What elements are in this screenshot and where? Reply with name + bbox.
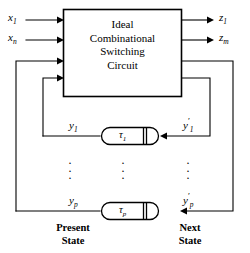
delay-label-taup-sub: p <box>123 210 127 218</box>
input-label-x1: x1 <box>8 12 17 23</box>
output-label-zm-sub: m <box>223 37 228 46</box>
ellipsis-dot: · <box>118 175 128 183</box>
present-state-label-y1: y1 <box>69 120 78 131</box>
input-label-x1-sub: 1 <box>13 17 17 26</box>
present-state-label-y1-sub: 1 <box>74 125 78 134</box>
present-state-label-yp-sub: p <box>74 200 78 209</box>
block-title-line-4: Circuit <box>64 59 181 73</box>
caption-present-state-line-2: State <box>38 235 108 248</box>
ellipsis-present-state: · · · <box>65 160 75 183</box>
next-state-label-y1-prime: y′1 <box>183 120 194 131</box>
block-title: Ideal Combinational Switching Circuit <box>64 18 181 72</box>
next-state-label-yp-prime-sub: p <box>190 200 194 209</box>
delay-element-p <box>102 203 159 220</box>
output-wire-zm <box>181 36 214 43</box>
caption-next-state-line-2: State <box>160 235 220 248</box>
ellipsis-dot: · <box>65 175 75 183</box>
ellipsis-delay-elements: · · · <box>118 160 128 183</box>
output-label-zm: zm <box>219 32 229 43</box>
figure-canvas: Ideal Combinational Switching Circuit x1… <box>0 0 250 253</box>
present-state-label-yp: yp <box>69 195 78 206</box>
input-label-xn-sub: n <box>13 37 17 46</box>
output-label-z1-sub: 1 <box>223 17 227 26</box>
delay-label-tau1: τ1 <box>119 130 126 141</box>
caption-present-state-line-1: Present <box>38 222 108 235</box>
delay-element-1 <box>102 128 159 145</box>
block-title-line-1: Ideal <box>64 18 181 32</box>
input-wire-xn <box>26 36 64 43</box>
delay-label-tau1-sub: 1 <box>123 135 127 143</box>
delay-label-taup: τp <box>119 205 126 216</box>
input-label-xn: xn <box>8 32 17 43</box>
caption-next-state: Next State <box>160 222 220 247</box>
output-label-z1: z1 <box>219 12 227 23</box>
block-title-line-2: Combinational <box>64 32 181 46</box>
next-state-label-yp-prime: y′p <box>183 195 194 206</box>
caption-present-state: Present State <box>38 222 108 247</box>
input-wire-x1 <box>26 16 64 23</box>
next-state-label-y1-prime-sub: 1 <box>190 125 194 134</box>
ellipsis-next-state: · · · <box>183 160 193 183</box>
caption-next-state-line-1: Next <box>160 222 220 235</box>
block-title-line-3: Switching <box>64 45 181 59</box>
output-wire-z1 <box>181 16 214 23</box>
ellipsis-dot: · <box>183 175 193 183</box>
